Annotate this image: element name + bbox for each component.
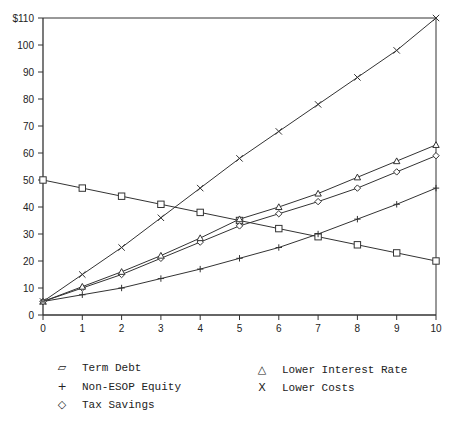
- y-tick-label: 70: [23, 121, 35, 132]
- y-tick-label: 50: [23, 175, 35, 186]
- y-tick-label: 90: [23, 67, 35, 78]
- square-marker-icon: [394, 250, 400, 256]
- square-marker-icon: [276, 225, 282, 231]
- triangle-marker-icon: [433, 142, 439, 148]
- diamond-marker-icon: [394, 169, 400, 175]
- legend-item-lower-interest-rate: △Lower Interest Rate: [252, 363, 407, 376]
- diamond-marker-icon: ◇: [52, 398, 72, 411]
- x-tick-label: 6: [276, 323, 282, 334]
- legend-item-non-esop-equity: +Non-ESOP Equity: [52, 380, 181, 393]
- x-tick-label: 10: [430, 323, 442, 334]
- triangle-marker-icon: [394, 158, 400, 164]
- square-marker-icon: [433, 258, 439, 264]
- x-tick-label: 0: [40, 323, 46, 334]
- x-tick-label: 4: [197, 323, 203, 334]
- square-marker-icon: [40, 177, 46, 183]
- line-chart: 0102030405060708090100$110012345678910Ye…: [0, 0, 454, 340]
- y-tick-label: 0: [28, 310, 34, 321]
- y-tick-label: 30: [23, 229, 35, 240]
- square-marker-icon: [354, 242, 360, 248]
- x-marker-icon: X: [252, 381, 272, 394]
- diamond-marker-icon: [433, 153, 439, 159]
- triangle-marker-icon: [197, 235, 203, 241]
- triangle-marker-icon: [315, 190, 321, 196]
- y-tick-label: 20: [23, 256, 35, 267]
- y-tick-label: 100: [17, 40, 34, 51]
- square-marker-icon: [118, 193, 124, 199]
- x-tick-label: 1: [80, 323, 86, 334]
- square-marker-icon: [158, 201, 164, 207]
- legend-item-lower-costs: XLower Costs: [252, 381, 355, 394]
- y-tick-label: 80: [23, 94, 35, 105]
- x-tick-label: 8: [355, 323, 361, 334]
- x-tick-label: 5: [237, 323, 243, 334]
- diamond-marker-icon: [354, 185, 360, 191]
- x-tick-label: 7: [315, 323, 321, 334]
- plus-marker-icon: +: [52, 380, 72, 393]
- square-marker-icon: ▱: [52, 361, 72, 374]
- y-tick-label: 10: [23, 283, 35, 294]
- y-tick-label: 60: [23, 148, 35, 159]
- diamond-marker-icon: [315, 198, 321, 204]
- diamond-marker-icon: [276, 211, 282, 217]
- legend-item-tax-savings: ◇Tax Savings: [52, 398, 155, 411]
- square-marker-icon: [197, 209, 203, 215]
- y-tick-label: 40: [23, 202, 35, 213]
- triangle-marker-icon: [158, 252, 164, 258]
- square-marker-icon: [79, 185, 85, 191]
- triangle-marker-icon: [118, 269, 124, 275]
- triangle-marker-icon: [354, 174, 360, 180]
- series-line-non-esop-equity: [43, 188, 436, 301]
- x-tick-label: 2: [119, 323, 125, 334]
- triangle-marker-icon: △: [252, 363, 272, 376]
- x-tick-label: 3: [158, 323, 164, 334]
- legend-item-term-debt: ▱Term Debt: [52, 361, 141, 374]
- x-tick-label: 9: [394, 323, 400, 334]
- y-tick-label: $110: [12, 13, 34, 24]
